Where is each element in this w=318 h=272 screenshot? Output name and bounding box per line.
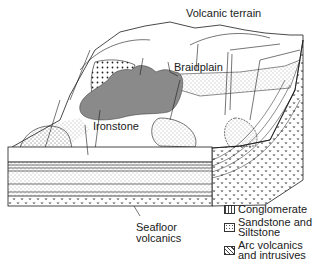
legend-label: Siltstone [238, 227, 312, 237]
legend-item-arc-volcanics: Arc volcanics and intrusives [224, 240, 312, 260]
label-ironstone: Ironstone [93, 121, 139, 132]
label-seafloor-volcanics: Seafloor volcanics [136, 222, 181, 244]
label-seafloor-line2: volcanics [136, 233, 181, 244]
legend: Conglomerate Sandstone and Siltstone Arc… [224, 204, 312, 263]
conglomerate-swatch-icon [224, 205, 235, 214]
arc-volcanics-swatch-icon [224, 246, 235, 255]
block-front-face [8, 147, 212, 216]
legend-label: and intrusives [238, 250, 306, 260]
legend-label: Conglomerate [238, 204, 307, 214]
label-braidplain: Braidplain [174, 62, 223, 73]
sandstone-swatch-icon [224, 223, 235, 232]
label-volcanic-terrain: Volcanic terrain [186, 8, 261, 19]
legend-item-conglomerate: Conglomerate [224, 204, 312, 214]
legend-item-sandstone: Sandstone and Siltstone [224, 217, 312, 237]
